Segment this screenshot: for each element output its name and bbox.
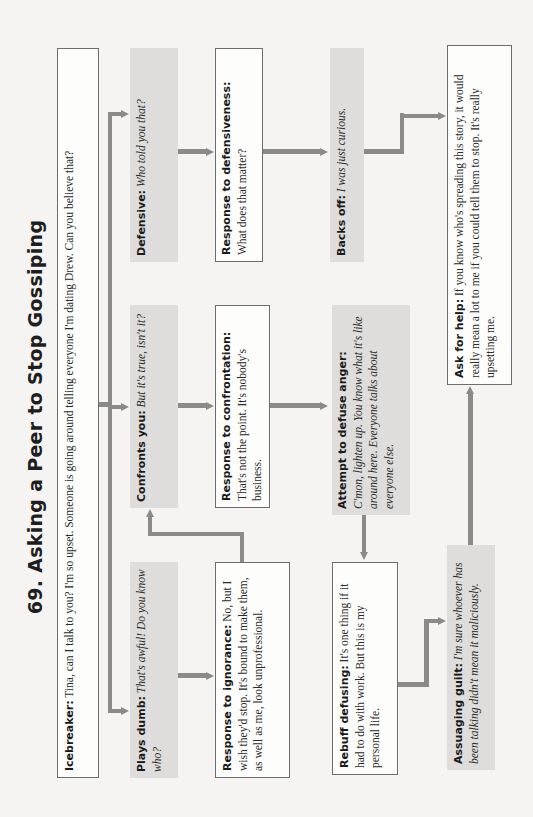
connector	[178, 149, 208, 154]
node-defensive: Defensive: Who told you that?	[130, 48, 178, 262]
connector-loop	[240, 532, 244, 562]
node-label: Ask for help:	[453, 299, 466, 378]
connector-loop	[148, 516, 152, 536]
arrow-right-icon	[466, 386, 474, 394]
page-title: 69. Asking a Peer to Stop Gossiping	[24, 167, 46, 667]
arrow-down-icon	[320, 148, 328, 156]
arrow-down-icon	[121, 110, 129, 118]
connector	[362, 515, 366, 552]
node-icebreaker: Icebreaker: Tina, can I talk to you? I'm…	[57, 48, 99, 778]
arrow-left-icon	[360, 552, 368, 560]
arrow-down-icon	[121, 707, 129, 715]
connector	[400, 114, 404, 154]
node-label: Confronts you:	[135, 410, 148, 502]
node-label: Assuaging guilt:	[452, 663, 465, 764]
arrow-down-icon	[438, 112, 446, 120]
node-assuaging-guilt: Assuaging guilt: I'm sure whoever has be…	[447, 545, 495, 770]
node-label: Response to ignorance:	[221, 625, 234, 771]
node-text: Who told you that?	[135, 99, 147, 190]
arrow-down-icon	[121, 403, 129, 411]
connector-drop-plays-dumb	[108, 709, 122, 713]
connector	[270, 403, 322, 408]
node-label: Icebreaker:	[63, 700, 76, 771]
node-text: What does that matter?	[235, 55, 251, 255]
node-label: Plays dumb:	[135, 696, 148, 772]
node-label: Response to defensiveness:	[220, 55, 235, 255]
connector	[263, 149, 322, 154]
node-response-to-defensiveness: Response to defensiveness: What does tha…	[215, 48, 263, 262]
diagram-canvas: 69. Asking a Peer to Stop Gossiping Iceb…	[0, 0, 533, 817]
node-label: Attempt to defuse anger:	[336, 311, 351, 509]
node-confronts-you: Confronts you: But it's true, isn't it?	[130, 305, 178, 508]
node-response-to-ignorance: Response to ignorance: No, but I wish th…	[215, 562, 290, 778]
connector-drop-confronts	[108, 405, 122, 409]
connector	[398, 682, 426, 687]
connector	[468, 393, 473, 545]
node-text: I was just curious.	[335, 108, 347, 195]
node-text: That's not the point. It's nobody's busi…	[235, 312, 266, 501]
node-label: Defensive:	[135, 190, 148, 256]
connector-loop	[148, 532, 244, 536]
node-text: But it's true, isn't it?	[135, 314, 147, 410]
node-label: Response to confrontation:	[220, 312, 235, 501]
node-text: Tina, can I talk to you? I'm so upset. S…	[63, 151, 75, 701]
node-label: Rebuff defusing:	[338, 665, 351, 768]
connector-branch-horizontal	[108, 112, 112, 711]
arrow-down-icon	[206, 402, 214, 410]
node-rebuff-defusing: Rebuff defusing: It's one thing if it ha…	[332, 562, 398, 775]
connector	[400, 114, 440, 118]
arrow-down-icon	[206, 148, 214, 156]
arrow-down-icon	[320, 402, 328, 410]
node-response-to-confrontation: Response to confrontation: That's not th…	[215, 305, 270, 508]
connector	[178, 673, 208, 678]
node-label: Backs off:	[335, 195, 348, 256]
arrow-right-icon	[146, 509, 154, 517]
node-backs-off: Backs off: I was just curious.	[330, 48, 364, 262]
node-text: C'mon, lighten up. You know what it's li…	[351, 311, 398, 509]
node-plays-dumb: Plays dumb: That's awful! Do you know wh…	[130, 562, 178, 778]
connector	[178, 403, 208, 408]
arrow-down-icon	[438, 617, 446, 625]
connector	[364, 149, 404, 154]
arrow-down-icon	[206, 672, 214, 680]
connector	[424, 619, 429, 687]
connector-drop-defensive	[108, 112, 122, 116]
node-attempt-to-defuse-anger: Attempt to defuse anger: C'mon, lighten …	[332, 305, 410, 515]
node-ask-for-help: Ask for help: If you know who's spreadin…	[447, 45, 512, 385]
